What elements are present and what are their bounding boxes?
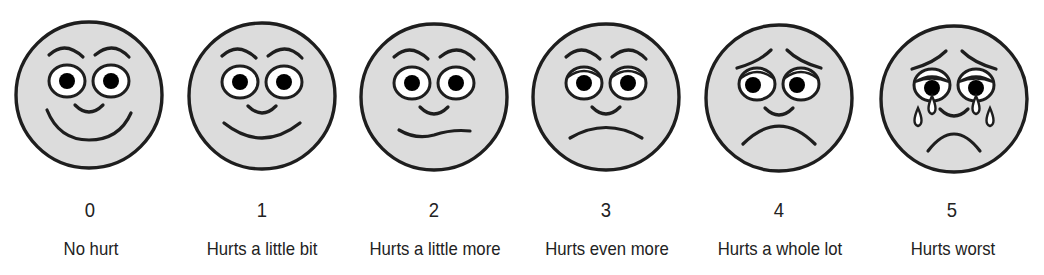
pupil — [448, 75, 464, 91]
face-outline — [361, 24, 507, 170]
face-outline — [16, 22, 162, 168]
face-outline — [189, 23, 335, 169]
face-outline — [881, 26, 1027, 172]
face-4-icon — [706, 25, 852, 171]
rating-number: 3 — [530, 198, 681, 222]
face-3-icon — [533, 24, 679, 170]
rating-number: 5 — [876, 198, 1027, 222]
face-outline — [706, 25, 852, 171]
pupil — [276, 74, 292, 90]
rating-label: Hurts worst — [869, 238, 1036, 260]
face-1-icon — [189, 23, 335, 169]
pupil — [745, 77, 761, 93]
rating-number: 1 — [186, 198, 337, 222]
pupil — [59, 73, 75, 89]
pupil — [232, 74, 248, 90]
rating-label: Hurts a little more — [351, 238, 518, 260]
pupil — [404, 75, 420, 91]
face-0-icon — [16, 22, 162, 168]
pupil — [103, 73, 119, 89]
face-2-icon — [361, 24, 507, 170]
rating-label: Hurts a whole lot — [696, 238, 863, 260]
pupil — [789, 77, 805, 93]
pupil — [576, 75, 592, 91]
rating-number: 0 — [14, 198, 165, 222]
faces-pain-rating-scale: 0 No hurt 1 Hurts a little bit 2 Hurts a… — [0, 0, 1044, 275]
rating-label: Hurts even more — [523, 238, 690, 260]
rating-number: 4 — [703, 198, 854, 222]
face-outline — [533, 24, 679, 170]
rating-label: No hurt — [7, 238, 174, 260]
pupil — [620, 75, 636, 91]
faces-illustration — [0, 0, 1044, 200]
rating-label: Hurts a little bit — [178, 238, 345, 260]
face-5-icon — [881, 26, 1027, 172]
rating-number: 2 — [358, 198, 509, 222]
